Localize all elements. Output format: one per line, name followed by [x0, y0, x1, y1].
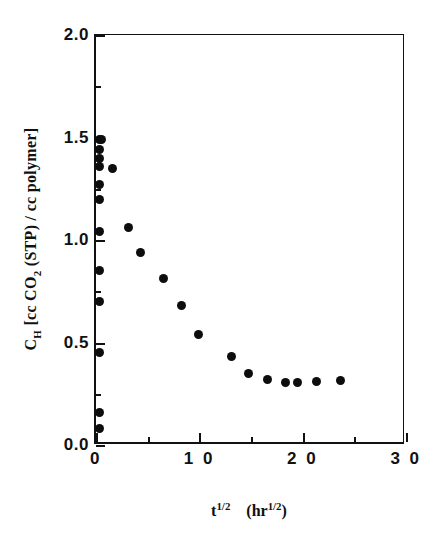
y-axis-rest-a: [cc CO — [22, 276, 39, 330]
y-tick-label: 0.0 — [64, 435, 89, 455]
y-tick-label: 2.0 — [64, 25, 89, 45]
data-point — [95, 145, 104, 154]
x-tick-label: 1 0 — [184, 449, 215, 469]
data-point — [281, 378, 290, 387]
data-point — [95, 297, 104, 306]
figure-canvas: CH [cc CO2 (STP) / cc polymer] 0.00.51.0… — [0, 0, 430, 538]
x-tick-label: 2 0 — [287, 449, 318, 469]
y-axis-rest-b: (STP) / cc polymer] — [22, 128, 39, 271]
y-axis-symbol-subscript: H — [30, 330, 42, 339]
data-point — [95, 195, 104, 204]
data-point — [95, 266, 104, 275]
data-point — [293, 378, 302, 387]
y-tick-major — [96, 445, 105, 447]
data-point — [95, 227, 104, 236]
data-point — [136, 248, 145, 257]
x-tick-label: 0 — [90, 449, 102, 469]
x-axis-title: t1/2(hr1/2) — [94, 500, 404, 520]
data-point — [227, 352, 236, 361]
data-point — [244, 369, 253, 378]
x-axis-variable-exponent: 1/2 — [216, 500, 230, 512]
data-point — [95, 408, 104, 417]
y-axis-title: CH [cc CO2 (STP) / cc polymer] — [20, 34, 44, 444]
x-axis-unit-open: (hr — [246, 502, 267, 519]
x-tick-major — [406, 433, 408, 442]
scatter-series — [96, 35, 403, 442]
data-point — [97, 135, 106, 144]
y-tick-label: 1.0 — [64, 230, 89, 250]
data-point — [108, 164, 117, 173]
data-point — [95, 424, 104, 433]
data-point — [95, 162, 104, 171]
x-axis-unit-close: ) — [282, 502, 287, 519]
data-point — [95, 348, 104, 357]
y-tick-label: 0.5 — [64, 333, 89, 353]
y-axis-title-text: CH [cc CO2 (STP) / cc polymer] — [22, 128, 42, 351]
data-point — [263, 375, 272, 384]
data-point — [336, 376, 345, 385]
data-point — [312, 377, 321, 386]
data-point — [177, 301, 186, 310]
x-tick-label: 3 0 — [390, 449, 421, 469]
y-axis-rest-subscript: 2 — [30, 270, 42, 276]
data-point — [95, 180, 104, 189]
data-point — [124, 223, 133, 232]
data-point — [194, 330, 203, 339]
plot-area: 0.00.51.01.52.0 01 02 03 0 — [94, 34, 404, 444]
y-tick-label: 1.5 — [64, 128, 89, 148]
data-point — [159, 274, 168, 283]
y-axis-symbol: C — [22, 339, 39, 351]
x-axis-unit-exponent: 1/2 — [268, 500, 282, 512]
